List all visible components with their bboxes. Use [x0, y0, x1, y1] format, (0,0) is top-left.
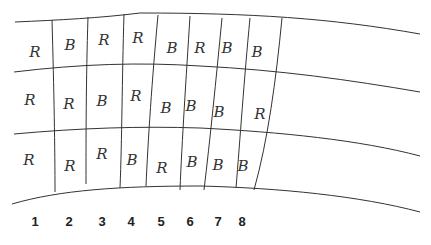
cell-r2-c1: R — [24, 91, 35, 109]
cell-r2-c4: R — [130, 87, 141, 105]
cell-r3-c8: B — [237, 157, 248, 175]
cell-r2-c8: R — [254, 105, 265, 123]
cell-r1-c1: R — [29, 43, 40, 61]
cell-r1-c5: B — [166, 39, 177, 57]
column-number-6: 6 — [186, 214, 193, 229]
cell-r2-c5: B — [160, 99, 171, 117]
cell-r1-c8: B — [251, 43, 262, 61]
cell-r1-c7: B — [221, 39, 232, 57]
column-number-7: 7 — [214, 214, 221, 229]
column-number-8: 8 — [238, 214, 245, 229]
cell-r3-c3: R — [96, 145, 107, 163]
cell-r1-c3: R — [98, 31, 109, 49]
cell-r3-c4: B — [126, 151, 137, 169]
cell-r3-c1: R — [23, 151, 34, 169]
cell-r1-c6: R — [194, 39, 205, 57]
cell-r3-c7: B — [212, 156, 223, 174]
column-number-2: 2 — [65, 214, 72, 229]
cell-r3-c2: R — [64, 157, 75, 175]
cell-r1-c4: R — [132, 29, 143, 47]
column-number-1: 1 — [31, 214, 38, 229]
cell-r2-c6: B — [185, 97, 196, 115]
cell-r2-c3: B — [96, 92, 107, 110]
cell-r1-c2: B — [64, 36, 75, 54]
column-number-4: 4 — [127, 214, 134, 229]
cell-r2-c2: R — [63, 95, 74, 113]
column-number-5: 5 — [157, 214, 164, 229]
column-number-3: 3 — [98, 214, 105, 229]
cell-r3-c6: B — [186, 153, 197, 171]
cell-r2-c7: B — [213, 103, 224, 121]
cell-r3-c5: R — [156, 159, 167, 177]
